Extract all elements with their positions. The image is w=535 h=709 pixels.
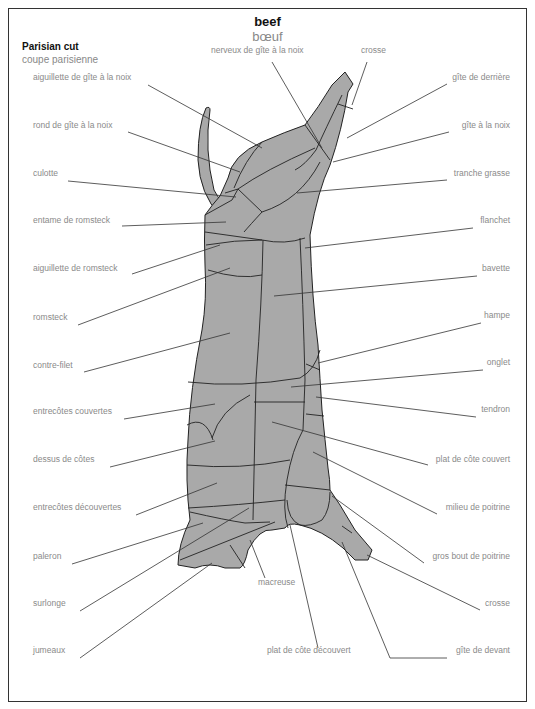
cut-label: nerveux de gîte à la noix — [211, 45, 304, 55]
cut-label: gîte de devant — [456, 645, 510, 655]
cut-label: jumeaux — [33, 645, 65, 655]
cut-label: entrecôtes découvertes — [33, 502, 121, 512]
cut-label: onglet — [487, 357, 510, 367]
cut-label: romsteck — [33, 312, 67, 322]
cut-label: entrecôtes couvertes — [33, 406, 112, 416]
cut-label: aiguillette de romsteck — [33, 263, 118, 273]
cut-label: paleron — [33, 551, 61, 561]
cut-label: aiguillette de gîte à la noix — [33, 72, 131, 82]
cut-label: gîte à la noix — [462, 120, 510, 130]
beef-cuts-diagram — [0, 0, 535, 709]
cut-label: macreuse — [258, 577, 295, 587]
cut-label: gîte de derrière — [452, 72, 510, 82]
cut-label: plat de côte découvert — [267, 645, 351, 655]
cut-label: bavette — [482, 263, 510, 273]
cut-label: flanchet — [480, 215, 510, 225]
cut-label: gros bout de poitrine — [433, 551, 511, 561]
cut-label: plat de côte couvert — [436, 454, 510, 464]
cut-label: hampe — [484, 310, 510, 320]
cut-label: contre-filet — [33, 360, 73, 370]
cut-label: crosse — [361, 45, 386, 55]
cut-label: crosse — [485, 598, 510, 608]
cut-label: tranche grasse — [454, 168, 510, 178]
cut-label: surlonge — [33, 598, 66, 608]
cut-label: tendron — [481, 404, 510, 414]
cut-label: dessus de côtes — [33, 454, 94, 464]
cut-label: culotte — [33, 168, 58, 178]
cut-label: milieu de poitrine — [446, 502, 510, 512]
cut-label: entame de romsteck — [33, 215, 110, 225]
cut-label: rond de gîte à la noix — [33, 120, 112, 130]
